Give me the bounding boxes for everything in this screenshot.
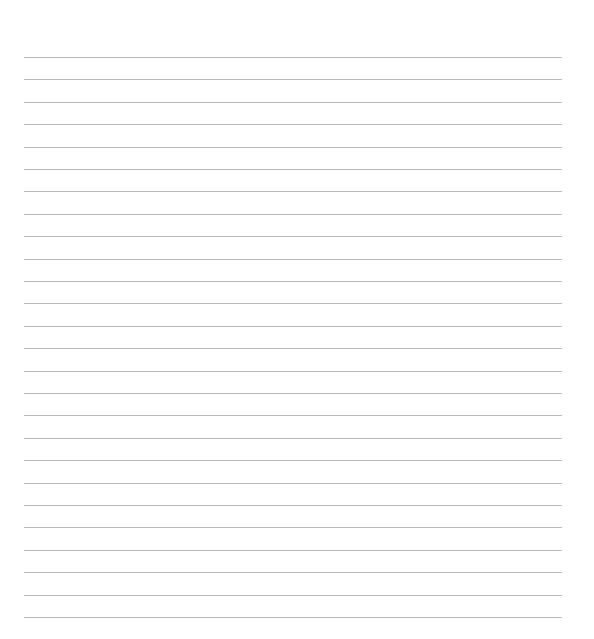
ruled-line [24,326,562,327]
ruled-line [24,281,562,282]
ruled-line [24,79,562,80]
ruled-line [24,236,562,237]
ruled-line [24,550,562,551]
line-text [28,39,558,59]
ruled-line [24,438,562,439]
line-text [28,465,558,485]
line-text [28,196,558,216]
line-text [28,397,558,417]
line-text [28,263,558,283]
line-text [28,375,558,395]
line-text [28,509,558,529]
line-text [28,353,558,373]
ruled-line [24,595,562,596]
ruled-line [24,214,562,215]
line-text [28,442,558,462]
ruled-line [24,527,562,528]
ruled-line [24,191,562,192]
line-text [28,84,558,104]
ruled-line [24,415,562,416]
ruled-line [24,505,562,506]
line-text [28,599,558,619]
ruled-line [24,147,562,148]
ruled-line [24,371,562,372]
ruled-line [24,348,562,349]
line-text [28,241,558,261]
ruled-line [24,617,562,618]
ruled-line [24,57,562,58]
line-text [28,554,558,574]
line-text [28,330,558,350]
line-text [28,151,558,171]
line-text [28,106,558,126]
line-text [28,218,558,238]
ruled-line [24,102,562,103]
line-text [28,577,558,597]
line-text [28,173,558,193]
line-text [28,420,558,440]
ruled-line [24,393,562,394]
ruled-line [24,303,562,304]
ruled-line [24,124,562,125]
lined-paper-page [0,0,594,639]
line-text [28,285,558,305]
line-text [28,61,558,81]
ruled-line [24,259,562,260]
ruled-line [24,483,562,484]
line-text [28,487,558,507]
ruled-line [24,169,562,170]
ruled-line [24,572,562,573]
line-text [28,308,558,328]
line-text [28,532,558,552]
ruled-line [24,460,562,461]
line-text [28,129,558,149]
